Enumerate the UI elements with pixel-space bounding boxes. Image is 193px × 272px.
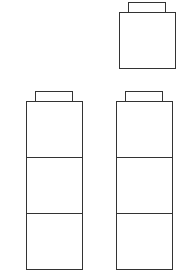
block-cube bbox=[26, 101, 83, 158]
block-cube bbox=[26, 213, 83, 270]
block-cube bbox=[116, 157, 173, 214]
block-cube bbox=[116, 101, 173, 158]
block-cube bbox=[119, 12, 176, 69]
block-cube bbox=[26, 157, 83, 214]
block-cube bbox=[116, 213, 173, 270]
